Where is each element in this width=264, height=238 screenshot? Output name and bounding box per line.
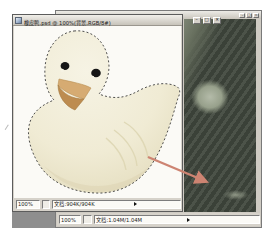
scan-mark: [5, 124, 12, 131]
duck-eye-left: [61, 62, 70, 70]
minimize-button[interactable]: –: [239, 13, 245, 18]
doc-info-text: 文档:1.04M/1.04M: [96, 217, 142, 222]
document-statusbar: 100% 文档:904K/904K: [14, 198, 181, 210]
zoom-level-field[interactable]: 100%: [59, 215, 81, 224]
eye-highlight-left: [61, 69, 64, 72]
close-button[interactable]: ×: [253, 13, 259, 18]
workspace-background: [12, 212, 55, 228]
zoom-level-value: 100%: [61, 217, 76, 222]
statusbar-separator: [83, 215, 92, 224]
zoom-level-value: 100%: [18, 201, 33, 206]
screenshot: – □ × 100% 文档:1.04M/1.04M 橡皮鸭.psd @ 100%…: [0, 0, 264, 238]
status-menu-arrow-icon[interactable]: [134, 202, 137, 206]
document-icon: [15, 17, 22, 24]
doc-info-field: 文档:904K/904K: [52, 200, 181, 209]
status-menu-arrow-icon[interactable]: [187, 218, 190, 222]
maximize-button[interactable]: □: [203, 17, 211, 24]
minimize-button[interactable]: –: [193, 17, 201, 24]
eye-highlight-right: [91, 76, 95, 80]
target-window-statusbar: 100% 文档:1.04M/1.04M: [57, 213, 260, 226]
zoom-level-field[interactable]: 100%: [16, 200, 40, 209]
maximize-button[interactable]: □: [246, 13, 252, 18]
doc-info-text: 文档:904K/904K: [54, 201, 95, 206]
close-button[interactable]: ×: [213, 17, 221, 24]
doc-info-field: 文档:1.04M/1.04M: [94, 215, 260, 224]
document-titlebar[interactable]: 橡皮鸭.psd @ 100%(背景,RGB/8#) – □ ×: [13, 15, 182, 26]
drag-direction-arrow-icon: [139, 149, 217, 189]
statusbar-separator: [42, 200, 50, 209]
